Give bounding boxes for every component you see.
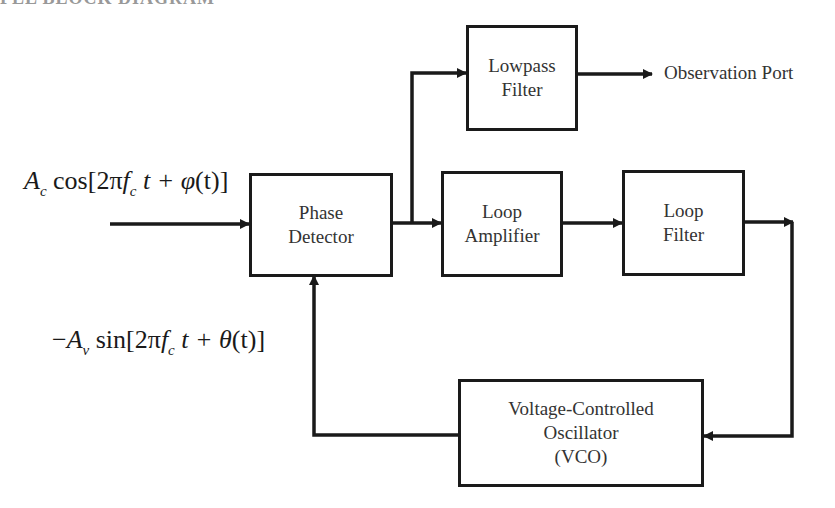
vco-block: Voltage-Controlled Oscillator (VCO)	[458, 379, 704, 487]
input-signal-label: Ac cos[2πfc t + φ(t)]	[24, 166, 228, 200]
vco-label-2: Oscillator	[544, 421, 619, 445]
observation-port-label: Observation Port	[664, 62, 793, 84]
vco-label-3: (VCO)	[555, 445, 608, 469]
vco-feedback-arrow	[314, 276, 458, 435]
loop-amplifier-label-1: Loop	[482, 200, 522, 224]
loop-amplifier-label-2: Amplifier	[465, 224, 540, 248]
phase-detector-block: Phase Detector	[249, 173, 393, 277]
vco-label-1: Voltage-Controlled	[508, 397, 653, 421]
loop-filter-block: Loop Filter	[622, 170, 745, 276]
loop-amplifier-block: Loop Amplifier	[441, 171, 563, 277]
lowpass-filter-label-1: Lowpass	[488, 54, 556, 78]
feedback-signal-label: −Av sin[2πfc t + θ(t)]	[52, 325, 265, 359]
lowpass-filter-block: Lowpass Filter	[466, 25, 578, 131]
phase-detector-label-2: Detector	[288, 225, 353, 249]
loop-filter-label-2: Filter	[663, 223, 704, 247]
loop-filter-label-1: Loop	[663, 199, 703, 223]
lowpass-filter-label-2: Filter	[501, 78, 542, 102]
phase-detector-label-1: Phase	[299, 201, 343, 225]
